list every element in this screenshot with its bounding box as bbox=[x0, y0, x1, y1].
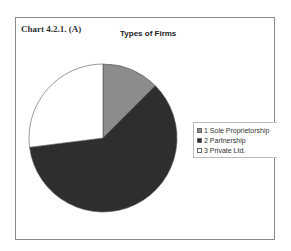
pie-chart bbox=[0, 0, 291, 251]
slice-private-ltd bbox=[29, 64, 103, 147]
